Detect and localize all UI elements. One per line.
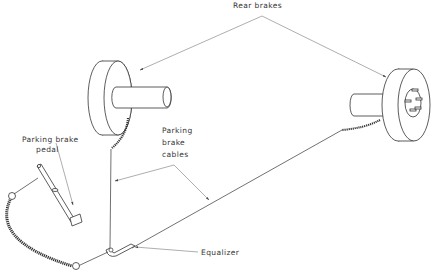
left-rear-brake <box>88 61 171 135</box>
label-parking-brake-pedal-2: pedal <box>36 145 59 154</box>
label-rear-brakes: Rear brakes <box>233 1 282 10</box>
label-parking-brake-cables-3: cables <box>162 150 189 159</box>
label-parking-brake-pedal-1: Parking brake <box>22 135 79 144</box>
parking-brake-cables <box>110 118 380 248</box>
parking-brake-diagram: Rear brakes Parking brake pedal Parking … <box>0 0 432 279</box>
label-equalizer: Equalizer <box>201 248 239 257</box>
right-rear-brake <box>350 69 430 141</box>
parking-brake-pedal <box>37 164 82 226</box>
label-parking-brake-cables-1: Parking <box>162 126 193 135</box>
label-parking-brake-cables-2: brake <box>162 138 185 147</box>
